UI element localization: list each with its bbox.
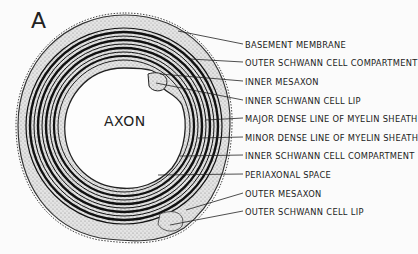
label-major-dense-line: MAJOR DENSE LINE OF MYELIN SHEATH bbox=[245, 114, 418, 124]
panel-letter: A bbox=[31, 8, 46, 33]
label-outer-schwann-cell-lip: OUTER SCHWANN CELL LIP bbox=[245, 207, 364, 217]
outer-schwann-lip bbox=[158, 212, 183, 231]
axon-label: AXON bbox=[104, 113, 146, 129]
label-inner-mesaxon: INNER MESAXON bbox=[245, 77, 319, 87]
label-basement-membrane: BASEMENT MEMBRANE bbox=[245, 40, 346, 50]
myelin-sheath-diagram: A AXON BASEMENT MEMBRANE OUTER SCHWANN C… bbox=[0, 0, 418, 254]
label-periaxonal-space: PERIAXONAL SPACE bbox=[245, 170, 331, 180]
label-minor-dense-line: MINOR DENSE LINE OF MYELIN SHEATH bbox=[245, 133, 418, 143]
label-inner-schwann-cell-lip: INNER SCHWANN CELL LIP bbox=[245, 96, 361, 106]
label-outer-mesaxon: OUTER MESAXON bbox=[245, 189, 322, 199]
label-outer-schwann-cell-compartment: OUTER SCHWANN CELL COMPARTMENT bbox=[245, 58, 418, 68]
inner-schwann-lip bbox=[148, 73, 167, 91]
label-inner-schwann-cell-compartment: INNER SCHWANN CELL COMPARTMENT bbox=[245, 151, 415, 161]
